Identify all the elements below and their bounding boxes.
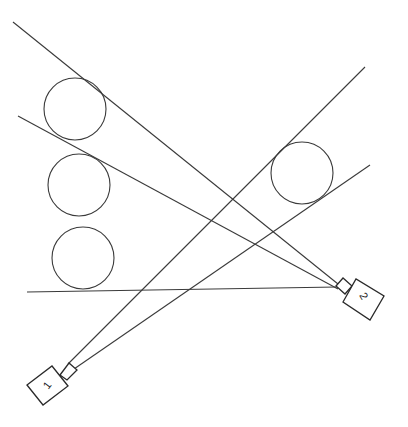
camera-2: 2 [336, 278, 384, 320]
circle-object-3 [52, 227, 114, 289]
camera-1: 1 [27, 363, 77, 405]
sight-lines [13, 22, 370, 369]
camera-1-lens [60, 363, 77, 380]
cam2-ray-top [13, 22, 338, 284]
circle-object-4 [271, 142, 333, 204]
camera-diagram: 1 2 [0, 0, 408, 427]
circle-object-1 [44, 78, 106, 140]
cam1-ray-upper [68, 67, 365, 364]
objects [44, 78, 333, 289]
circle-object-2 [48, 154, 110, 216]
cam1-ray-lower [74, 165, 370, 369]
